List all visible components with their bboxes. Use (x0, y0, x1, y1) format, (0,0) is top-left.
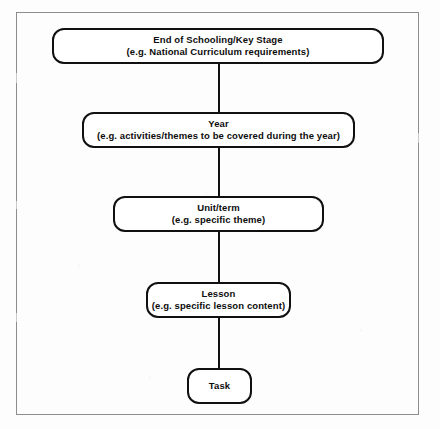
node-task[interactable]: Task (187, 368, 252, 404)
frame-scan-break (417, 133, 419, 143)
connector-end-to-year (218, 64, 220, 112)
frame-scan-break (16, 201, 18, 209)
connector-year-to-unit (218, 148, 220, 196)
node-title: Unit/term (197, 202, 240, 214)
frame-scan-break (16, 73, 18, 83)
node-title: Year (208, 118, 228, 130)
node-end-of-schooling[interactable]: End of Schooling/Key Stage (e.g. Nationa… (52, 28, 384, 64)
node-title: Lesson (202, 288, 236, 300)
node-lesson[interactable]: Lesson (e.g. specific lesson content) (146, 282, 291, 318)
connector-unit-to-lesson (218, 232, 220, 282)
node-subtitle: (e.g. specific theme) (172, 214, 265, 226)
node-subtitle: (e.g. National Curriculum requirements) (127, 46, 310, 58)
frame-scan-break (16, 313, 18, 322)
node-unit-term[interactable]: Unit/term (e.g. specific theme) (113, 196, 324, 232)
node-title: End of Schooling/Key Stage (153, 34, 282, 46)
node-year[interactable]: Year (e.g. activities/themes to be cover… (82, 112, 355, 148)
node-subtitle: (e.g. activities/themes to be covered du… (97, 130, 340, 142)
node-title: Task (209, 380, 230, 392)
node-subtitle: (e.g. specific lesson content) (152, 300, 285, 312)
connector-lesson-to-task (218, 318, 220, 368)
diagram-page: End of Schooling/Key Stage (e.g. Nationa… (0, 0, 440, 429)
